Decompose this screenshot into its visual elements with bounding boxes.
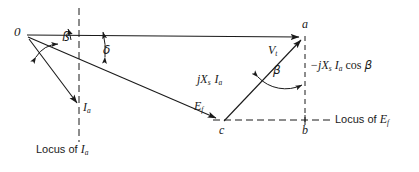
jxsia-phasor-label: jXsIa	[197, 73, 222, 87]
ef-phasor-arrow	[28, 37, 216, 118]
point-b-label: b	[302, 124, 308, 136]
phasor-diagram-figure: 0 ß δ Ia Locus of Ia a Vt β −jXsIacosβ j…	[0, 0, 419, 172]
locus-of-ia-label: Locus of Ia	[36, 143, 88, 157]
ef-phasor-label: Ef	[194, 100, 203, 114]
ia-phasor-label: Ia	[83, 101, 91, 115]
beta-right-label: β	[273, 64, 281, 76]
point-origin-label: 0	[14, 25, 21, 38]
point-c-label: c	[219, 124, 224, 136]
beta-left-label: ß	[62, 31, 70, 43]
point-a-label: a	[302, 18, 308, 30]
jxsia-cos-beta-label: −jXsIacosβ	[310, 59, 372, 73]
delta-label: δ	[103, 44, 110, 56]
beta-left-angle-arc2	[36, 44, 58, 57]
locus-of-ef-label: Locus of Ef	[335, 113, 389, 127]
vt-phasor-label: Vt	[268, 44, 277, 58]
ia-phasor-arrow	[29, 39, 77, 103]
